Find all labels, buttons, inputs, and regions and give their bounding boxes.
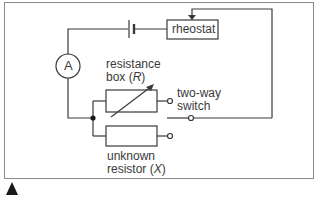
unknown-resistor-box bbox=[106, 126, 157, 146]
wire-ammeter-junction bbox=[68, 78, 93, 118]
ammeter-symbol: A bbox=[64, 59, 73, 72]
switch-label-line2: switch bbox=[177, 100, 221, 113]
slider-arrow-head-icon bbox=[188, 15, 196, 20]
switch-pivot-terminal bbox=[189, 116, 194, 121]
triangle-up-icon bbox=[6, 182, 18, 195]
unknown-resistor-label: unknown resistor (X) bbox=[107, 150, 166, 176]
terminal-x bbox=[168, 134, 173, 139]
label-prefix: resistor ( bbox=[107, 162, 154, 176]
junction-dot bbox=[90, 115, 95, 120]
label-variable: X bbox=[154, 162, 162, 176]
resistance-box-label: resistance box (R) bbox=[106, 58, 161, 84]
terminal-r bbox=[168, 99, 173, 104]
switch-label: two-way switch bbox=[177, 87, 221, 113]
label-prefix: box ( bbox=[106, 70, 133, 84]
rheostat-label: rheostat bbox=[172, 23, 215, 36]
resistance-box-label-line2: box (R) bbox=[106, 71, 161, 84]
wire-top-left bbox=[68, 29, 128, 54]
label-suffix: ) bbox=[141, 70, 145, 84]
label-suffix: ) bbox=[162, 162, 166, 176]
unknown-resistor-label-line2: resistor (X) bbox=[107, 163, 166, 176]
